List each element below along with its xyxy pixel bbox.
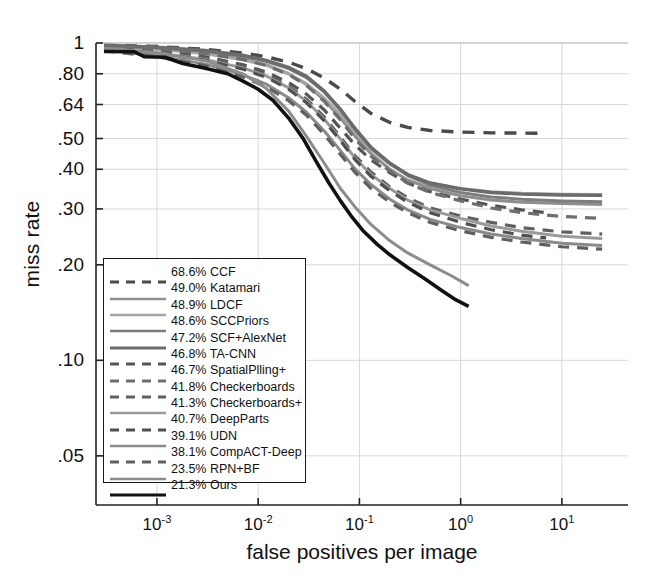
curve-checkerboards- [104,48,602,238]
x-tick-label: 10-3 [117,513,197,535]
legend-label: 41.8% Checkerboards [171,381,295,394]
chart-legend[interactable]: 68.6% CCF49.0% Katamari48.9% LDCF48.6% S… [103,258,306,483]
legend-label: 68.6% CCF [171,266,236,279]
curve-deepparts [104,49,546,238]
legend-label: 48.6% SCCPriors [171,315,269,328]
x-tick-label: 10-1 [319,513,399,535]
curve-scf-alexnet [104,45,602,195]
legend-label: 38.1% CompACT-Deep [171,446,302,459]
legend-label: 23.5% RPN+BF [171,463,260,476]
y-tick-label: .10 [24,349,84,371]
legend-item[interactable]: 68.6% CCF [104,264,305,280]
legend-label: 48.9% LDCF [171,299,243,312]
y-tick-label: .50 [24,128,84,150]
y-tick-label: .80 [24,63,84,85]
y-tick-label: 1 [24,32,84,54]
legend-label: 39.1% UDN [171,430,237,443]
legend-label: 49.0% Katamari [171,282,260,295]
legend-label: 40.7% DeepParts [171,413,269,426]
x-tick-label: 100 [421,513,501,535]
legend-label: 41.3% Checkerboards+ [171,397,302,410]
legend-label: 46.8% TA-CNN [171,348,256,361]
y-tick-label: .64 [24,94,84,116]
y-tick-label: .05 [24,445,84,467]
x-axis-label: false positives per image [96,540,628,564]
y-axis-label: miss rate [20,174,44,314]
legend-label: 21.3% Ours [171,479,237,492]
miss-rate-fppi-chart: 1.80.64.50.40.30.20.10.05 10-310-210-110… [0,0,655,588]
legend-label: 46.7% SpatialPlling+ [171,364,286,377]
plot-canvas [0,0,655,588]
legend-label: 47.2% SCF+AlexNet [171,332,286,345]
curve-rpn-bf [104,48,469,285]
x-tick-label: 101 [522,513,602,535]
x-tick-label: 10-2 [218,513,298,535]
